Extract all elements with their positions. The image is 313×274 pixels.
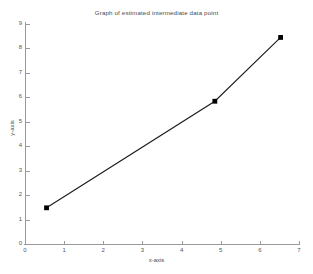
- series-line: [47, 37, 281, 207]
- series-markers: [44, 35, 283, 210]
- data-point-marker: [44, 205, 49, 210]
- data-point-marker: [278, 35, 283, 40]
- data-series-plot: [0, 0, 313, 274]
- chart-figure: Graph of estimated intermediate data poi…: [0, 0, 313, 274]
- data-point-marker: [212, 99, 217, 104]
